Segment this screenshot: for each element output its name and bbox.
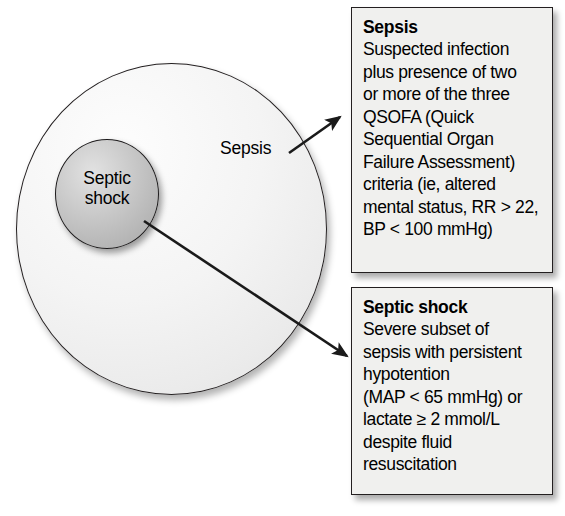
sepsis-circle	[16, 63, 327, 395]
sepsis-callout-body: Suspected infection plus presence of two…	[363, 38, 543, 241]
sepsis-definition-figure: Septic shock Sepsis Sepsis Suspected inf…	[0, 0, 565, 516]
septic-shock-callout-title: Septic shock	[363, 296, 543, 318]
sepsis-callout-title: Sepsis	[363, 16, 543, 38]
septic-shock-label-line2: shock	[55, 188, 159, 208]
septic-shock-label-line1: Septic	[55, 168, 159, 188]
sepsis-callout-box: Sepsis Suspected infection plus presence…	[351, 7, 553, 273]
septic-shock-callout-box: Septic shock Severe subset of sepsis wit…	[351, 287, 553, 495]
septic-shock-callout-body: Severe subset of sepsis with persistent …	[363, 318, 543, 476]
venn-diagram: Septic shock Sepsis	[0, 0, 345, 516]
septic-shock-circle-label: Septic shock	[55, 168, 159, 208]
sepsis-circle-label: Sepsis	[220, 138, 271, 158]
